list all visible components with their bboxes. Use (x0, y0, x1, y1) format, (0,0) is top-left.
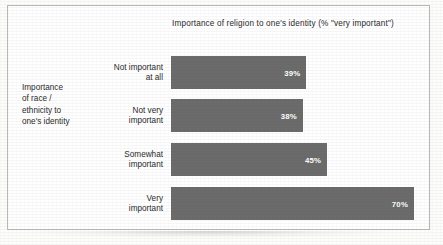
category-label-line-1: Not important (8, 62, 163, 72)
category-label-line-1: Somewhat (8, 149, 163, 159)
bar-value-label: 39% (284, 68, 300, 77)
category-label-line-2: at all (8, 73, 163, 83)
bar-track: 70% (171, 187, 421, 220)
category-label-line-2: important (8, 204, 163, 214)
bar-row: Not very important 38% (8, 99, 431, 132)
bar-value-label: 38% (281, 111, 297, 120)
bar-row: Somewhat important 45% (8, 143, 431, 176)
category-label-line-1: Not very (8, 105, 163, 115)
bar-row: Very important 70% (8, 187, 431, 220)
category-label-line-2: important (8, 116, 163, 126)
chart-frame: Importance of religion to one's identity… (7, 5, 430, 230)
category-label: Very important (8, 193, 163, 214)
bar-value-label: 45% (305, 155, 321, 164)
category-label: Somewhat important (8, 149, 163, 170)
bar-row: Not important at all 39% (8, 56, 431, 89)
plot-area: Not important at all 39% Not very import… (8, 6, 431, 231)
bar-track: 45% (171, 143, 421, 176)
chart-page: Importance of religion to one's identity… (0, 0, 443, 245)
bar-track: 38% (171, 99, 421, 132)
bar[interactable]: 70% (171, 187, 414, 220)
category-label-line-1: Very (8, 193, 163, 203)
category-label-line-2: important (8, 160, 163, 170)
scan-shadow-bottom (28, 231, 388, 238)
bar-track: 39% (171, 56, 421, 89)
bar[interactable]: 45% (171, 143, 327, 176)
category-label: Not important at all (8, 62, 163, 83)
category-label: Not very important (8, 105, 163, 126)
bar-value-label: 70% (392, 199, 408, 208)
bar[interactable]: 38% (171, 99, 303, 132)
bar[interactable]: 39% (171, 56, 306, 89)
